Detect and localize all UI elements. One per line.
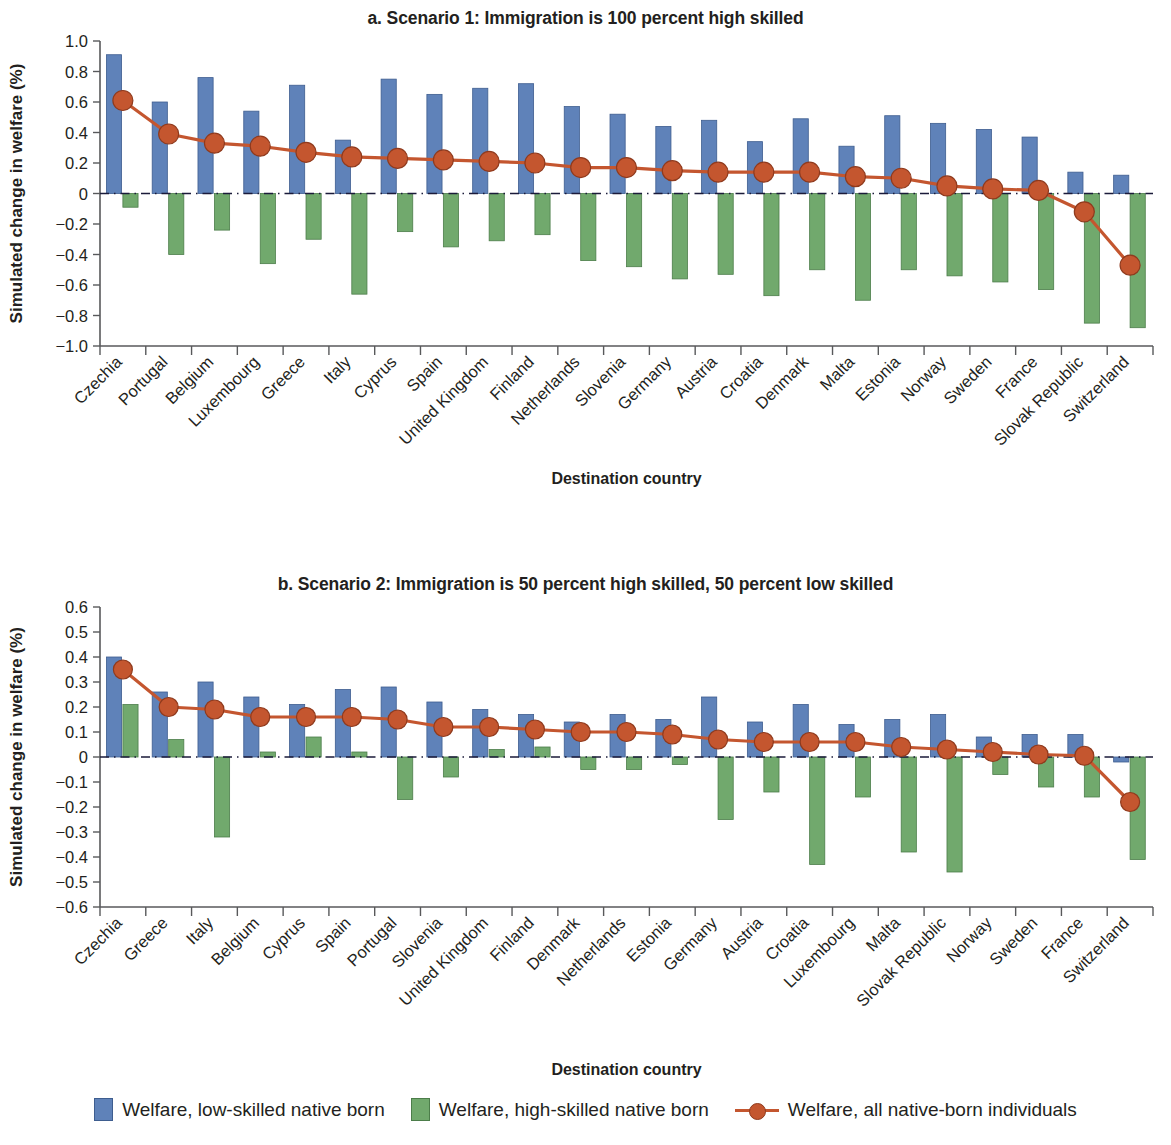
bar-high-skilled bbox=[718, 194, 733, 275]
bar-high-skilled bbox=[947, 194, 962, 276]
chart-panel-b: b. Scenario 2: Immigration is 50 percent… bbox=[0, 570, 1171, 1090]
line-point-all-native-born bbox=[250, 136, 270, 156]
bar-high-skilled bbox=[398, 757, 413, 800]
bar-high-skilled bbox=[169, 740, 184, 758]
x-axis-category-label: Spain bbox=[311, 913, 354, 956]
legend-item-low-skilled: Welfare, low-skilled native born bbox=[94, 1098, 385, 1121]
bar-high-skilled bbox=[260, 194, 275, 264]
y-tick-label: 0.6 bbox=[65, 598, 88, 616]
x-axis-title: Destination country bbox=[551, 1061, 701, 1078]
bar-high-skilled bbox=[810, 757, 825, 865]
line-point-all-native-born bbox=[434, 718, 453, 737]
bar-low-skilled bbox=[381, 79, 396, 193]
legend-item-high-skilled: Welfare, high-skilled native born bbox=[411, 1098, 709, 1121]
bar-low-skilled bbox=[290, 85, 305, 193]
line-point-all-native-born bbox=[983, 179, 1003, 199]
bar-high-skilled bbox=[489, 194, 504, 241]
legend-label-low-skilled: Welfare, low-skilled native born bbox=[122, 1099, 385, 1121]
y-tick-label: 0.3 bbox=[65, 673, 88, 691]
bar-high-skilled bbox=[535, 747, 550, 757]
line-point-all-native-born bbox=[617, 723, 636, 742]
y-tick-label: −0.5 bbox=[55, 873, 88, 891]
y-tick-label: −0.4 bbox=[55, 848, 88, 866]
line-point-all-native-born bbox=[113, 660, 132, 679]
bar-high-skilled bbox=[993, 194, 1008, 282]
line-point-all-native-born bbox=[800, 733, 819, 752]
bar-low-skilled bbox=[1114, 175, 1129, 193]
y-tick-label: 0 bbox=[79, 748, 88, 766]
x-axis-category-label: Cyprus bbox=[350, 352, 400, 402]
y-tick-label: 0.5 bbox=[65, 623, 88, 641]
line-point-all-native-born bbox=[113, 90, 133, 110]
bar-low-skilled bbox=[610, 114, 625, 193]
bar-high-skilled bbox=[627, 757, 642, 770]
x-axis-category-label: Greece bbox=[257, 352, 308, 403]
line-point-all-native-born bbox=[845, 167, 865, 187]
x-axis-category-label: Malta bbox=[816, 352, 858, 394]
line-point-all-native-born bbox=[708, 162, 728, 182]
y-tick-label: −0.1 bbox=[55, 773, 88, 791]
legend-swatch-green-icon bbox=[411, 1098, 430, 1121]
legend-label-all-native: Welfare, all native-born individuals bbox=[788, 1099, 1077, 1121]
line-point-all-native-born bbox=[479, 151, 499, 171]
y-tick-label: 0.2 bbox=[65, 154, 88, 172]
bar-high-skilled bbox=[306, 737, 321, 757]
x-axis-category-label: Malta bbox=[862, 913, 904, 955]
y-tick-label: 0 bbox=[79, 185, 88, 203]
bar-low-skilled bbox=[702, 120, 717, 193]
y-tick-label: 0.1 bbox=[65, 723, 88, 741]
bar-high-skilled bbox=[672, 194, 687, 279]
line-point-all-native-born bbox=[433, 150, 453, 170]
bar-high-skilled bbox=[901, 194, 916, 270]
legend-swatch-blue-icon bbox=[94, 1098, 113, 1121]
bar-low-skilled bbox=[106, 55, 121, 194]
line-point-all-native-born bbox=[480, 718, 499, 737]
bar-high-skilled bbox=[855, 757, 870, 797]
bar-high-skilled bbox=[489, 750, 504, 758]
line-point-all-native-born bbox=[662, 161, 682, 181]
bar-high-skilled bbox=[443, 757, 458, 777]
line-point-all-native-born bbox=[525, 720, 544, 739]
bar-high-skilled bbox=[169, 194, 184, 255]
bar-high-skilled bbox=[764, 194, 779, 296]
bar-low-skilled bbox=[427, 94, 442, 193]
bar-high-skilled bbox=[398, 194, 413, 232]
y-tick-label: −0.3 bbox=[55, 823, 88, 841]
bar-low-skilled bbox=[198, 682, 213, 757]
line-point-all-native-born bbox=[159, 698, 178, 717]
bar-high-skilled bbox=[672, 757, 687, 765]
panel-b-title: b. Scenario 2: Immigration is 50 percent… bbox=[0, 570, 1171, 595]
y-tick-label: −0.2 bbox=[55, 798, 88, 816]
bar-low-skilled bbox=[244, 697, 259, 757]
bar-high-skilled bbox=[214, 194, 229, 231]
bar-low-skilled bbox=[656, 126, 671, 193]
y-tick-label: 1.0 bbox=[65, 32, 88, 50]
x-axis-category-label: Spain bbox=[403, 352, 446, 395]
y-axis-title: Simulated change in welfare (%) bbox=[7, 627, 26, 887]
x-axis-category-label: Estonia bbox=[852, 352, 904, 404]
legend-label-high-skilled: Welfare, high-skilled native born bbox=[439, 1099, 709, 1121]
bar-high-skilled bbox=[718, 757, 733, 820]
line-point-all-native-born bbox=[525, 153, 545, 173]
line-point-all-native-born bbox=[617, 158, 637, 178]
line-point-all-native-born bbox=[342, 708, 361, 727]
bar-high-skilled bbox=[123, 194, 138, 208]
bar-high-skilled bbox=[627, 194, 642, 267]
line-point-all-native-born bbox=[205, 700, 224, 719]
line-point-all-native-born bbox=[342, 147, 362, 167]
line-point-all-native-born bbox=[1120, 255, 1140, 275]
bar-high-skilled bbox=[581, 194, 596, 261]
line-point-all-native-born bbox=[296, 142, 316, 162]
bar-low-skilled bbox=[564, 107, 579, 194]
y-tick-label: 0.4 bbox=[65, 124, 88, 142]
line-point-all-native-born bbox=[663, 725, 682, 744]
line-point-all-native-born bbox=[1074, 202, 1094, 222]
line-point-all-native-born bbox=[983, 743, 1002, 762]
line-point-all-native-born bbox=[937, 740, 956, 759]
y-tick-label: −0.8 bbox=[55, 307, 88, 325]
chart-a-canvas: 1.00.80.60.40.20−0.2−0.4−0.6−0.8−1.0Czec… bbox=[0, 29, 1171, 549]
line-point-all-native-born bbox=[297, 708, 316, 727]
line-point-all-native-born bbox=[388, 148, 408, 168]
y-tick-label: −0.6 bbox=[55, 898, 88, 916]
y-tick-label: −0.4 bbox=[55, 246, 88, 264]
